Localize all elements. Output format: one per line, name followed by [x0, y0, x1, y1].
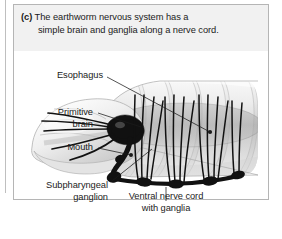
adjacent-panel-edge: [0, 0, 6, 193]
figure-caption: (c) The earthworm nervous system has a s…: [14, 5, 268, 51]
label-mouth: Mouth: [3, 142, 93, 152]
label-ventral-nerve-cord: Ventral nerve cord with ganglia: [108, 190, 224, 215]
label-ventral-line-2: with ganglia: [108, 202, 224, 214]
label-subpharyngeal-line-1: Subpharyngeal: [0, 179, 108, 191]
leader-dot-mouth: [129, 153, 133, 157]
label-primitive-brain: Primitive brain: [1, 106, 93, 131]
figure-panel: (c) The earthworm nervous system has a s…: [13, 4, 269, 200]
caption-line-1-text: The earthworm nervous system has a: [35, 12, 189, 22]
label-subpharyngeal-ganglion: Subpharyngeal ganglion: [0, 179, 108, 204]
label-ventral-line-1: Ventral nerve cord: [108, 190, 224, 202]
caption-line-2: simple brain and ganglia along a nerve c…: [21, 24, 260, 37]
brain-highlight: [115, 122, 125, 128]
label-subpharyngeal-line-2: ganglion: [0, 191, 108, 203]
leader-dot-esophagus: [208, 130, 212, 134]
caption-part-label: (c): [21, 12, 32, 22]
label-primitive-brain-line-1: Primitive: [1, 106, 93, 118]
label-primitive-brain-line-2: brain: [1, 118, 93, 130]
earthworm-nervous-system-figure: Esophagus Primitive brain Mouth Subphary…: [14, 51, 270, 239]
caption-line-1: (c) The earthworm nervous system has a: [21, 11, 260, 24]
label-esophagus: Esophagus: [3, 70, 103, 80]
